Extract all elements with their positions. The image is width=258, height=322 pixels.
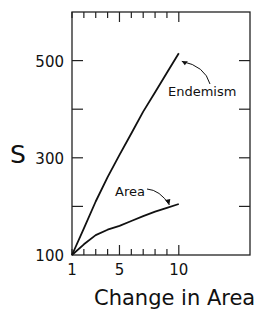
arrow-area [147, 189, 169, 205]
axis-ticks [72, 12, 250, 255]
annotation-endemism: Endemism [168, 84, 236, 99]
y-tick-label: 500 [35, 53, 64, 71]
series-endemism [72, 53, 179, 255]
arrow-endemism [182, 61, 210, 84]
y-tick-label: 300 [35, 150, 64, 168]
annotation-area: Area [115, 184, 145, 199]
series-area [72, 204, 179, 255]
tick-labels: 1510100300500 [35, 53, 188, 279]
x-tick-label: 5 [115, 261, 125, 279]
x-axis-label: Change in Area [94, 286, 255, 310]
plot-border [72, 12, 250, 255]
plot-frame [72, 12, 250, 255]
y-tick-label: 100 [35, 247, 64, 265]
annotations: EndemismArea [115, 61, 236, 205]
arrowhead-area [165, 199, 170, 205]
x-tick-label: 1 [67, 261, 77, 279]
x-tick-label: 10 [169, 261, 188, 279]
arrowhead-endemism [182, 61, 188, 65]
series-lines [72, 53, 179, 255]
y-axis-label: S [10, 140, 26, 169]
chart: 1510100300500 EndemismArea S Change in A… [0, 0, 258, 322]
